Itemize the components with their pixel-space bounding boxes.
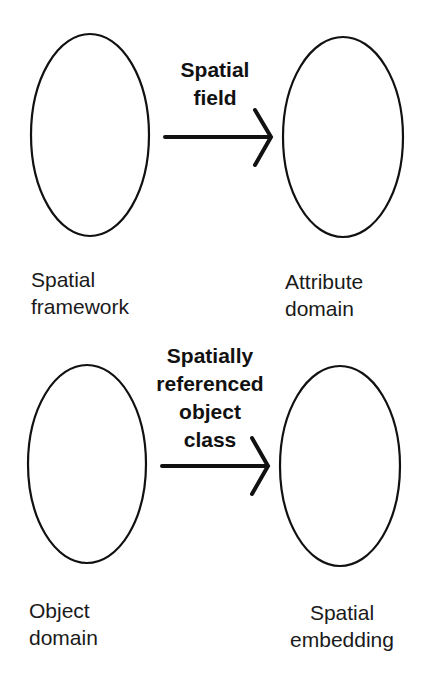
arrow-label-line: Spatial: [160, 56, 270, 84]
label-line: embedding: [269, 626, 415, 653]
arrow-label-line: field: [160, 84, 270, 112]
label-line: Attribute: [285, 268, 363, 295]
label-line: domain: [285, 295, 363, 322]
object-domain-ellipse: [28, 365, 146, 563]
spatial-field-label: Spatial field: [160, 56, 270, 112]
attribute-domain-ellipse: [283, 37, 403, 237]
label-line: Object: [29, 597, 98, 624]
arrow-label-line: class: [130, 426, 290, 454]
spatial-embedding-label: Spatial embedding: [269, 599, 415, 653]
spatial-embedding-ellipse: [280, 366, 400, 566]
object-domain-label: Object domain: [29, 597, 98, 651]
label-line: Spatial: [269, 599, 415, 626]
spatially-referenced-object-class-label: Spatially referenced object class: [130, 342, 290, 454]
attribute-domain-label: Attribute domain: [285, 268, 363, 322]
label-line: Spatial: [31, 266, 129, 293]
spatial-framework-label: Spatial framework: [31, 266, 129, 320]
arrow-label-line: referenced: [130, 370, 290, 398]
spatial-framework-ellipse: [31, 34, 149, 236]
spatial-field-arrow: [165, 110, 271, 165]
label-line: domain: [29, 624, 98, 651]
arrow-label-line: object: [130, 398, 290, 426]
label-line: framework: [31, 293, 129, 320]
arrow-label-line: Spatially: [130, 342, 290, 370]
